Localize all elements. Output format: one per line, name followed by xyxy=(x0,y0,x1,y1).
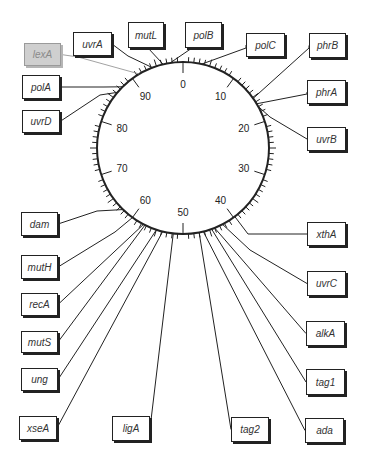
tick-label: 40 xyxy=(215,195,227,206)
tick-label: 50 xyxy=(177,207,189,218)
connector-uvrC xyxy=(223,224,307,283)
minor-tick xyxy=(125,214,128,218)
minor-tick xyxy=(108,199,114,203)
minor-tick xyxy=(268,159,273,160)
connector-tag1 xyxy=(212,229,306,382)
gene-box-recA[interactable]: recA xyxy=(21,293,58,316)
tick-label: 10 xyxy=(215,91,227,102)
minor-tick xyxy=(258,104,262,106)
minor-tick xyxy=(238,214,241,218)
gene-box-phrA[interactable]: phrA xyxy=(307,80,346,104)
connector-lexA xyxy=(61,55,139,74)
gene-label: polA xyxy=(31,82,51,93)
gene-label: tag2 xyxy=(240,424,259,435)
gene-box-mutS[interactable]: mutS xyxy=(21,331,58,353)
minor-tick xyxy=(121,82,124,86)
major-tick xyxy=(227,209,233,218)
minor-tick xyxy=(249,203,253,206)
gene-box-ung[interactable]: ung xyxy=(21,368,58,391)
gene-label: ada xyxy=(316,425,333,436)
gene-box-ada[interactable]: ada xyxy=(305,418,344,443)
gene-box-lexA[interactable]: lexA xyxy=(24,43,61,66)
tick-label: 90 xyxy=(140,91,152,102)
minor-tick xyxy=(229,71,232,75)
minor-tick xyxy=(139,68,141,72)
gene-box-uvrB[interactable]: uvrB xyxy=(307,127,346,151)
minor-tick xyxy=(238,78,241,82)
connector-phrA xyxy=(257,92,307,104)
gene-label: mutH xyxy=(28,262,52,273)
gene-label: polC xyxy=(255,40,276,51)
connector-ada xyxy=(203,232,305,431)
minor-tick xyxy=(125,78,128,82)
minor-tick xyxy=(101,185,106,187)
gene-box-xseA[interactable]: xseA xyxy=(19,416,57,440)
gene-box-uvrD[interactable]: uvrD xyxy=(22,110,60,133)
minor-tick xyxy=(242,211,245,215)
gene-label: uvrC xyxy=(316,278,337,289)
gene-label: mutS xyxy=(28,337,51,348)
minor-tick xyxy=(258,189,262,191)
minor-tick xyxy=(134,221,137,225)
minor-tick xyxy=(113,203,117,206)
gene-box-uvrC[interactable]: uvrC xyxy=(307,271,346,296)
gene-box-tag1[interactable]: tag1 xyxy=(306,369,345,395)
minor-tick xyxy=(210,230,212,237)
tick-label: 30 xyxy=(238,163,250,174)
major-tick xyxy=(101,171,111,174)
gene-label: dam xyxy=(30,219,49,230)
minor-tick xyxy=(253,199,259,203)
connector-ung xyxy=(58,230,156,380)
major-tick xyxy=(254,171,264,174)
gene-box-dam[interactable]: dam xyxy=(21,212,58,236)
minor-tick xyxy=(220,226,222,231)
tick-label: 80 xyxy=(117,123,129,134)
gene-box-phrB[interactable]: phrB xyxy=(309,33,346,58)
gene-box-polC[interactable]: polC xyxy=(246,33,285,57)
gene-box-polB[interactable]: polB xyxy=(185,22,222,48)
minor-tick xyxy=(144,226,146,231)
gene-box-mutH[interactable]: mutH xyxy=(21,255,58,279)
major-tick xyxy=(132,209,138,218)
gene-label: lexA xyxy=(33,49,52,60)
minor-tick xyxy=(256,99,260,102)
minor-tick xyxy=(242,82,245,86)
connector-polB xyxy=(170,48,195,63)
minor-tick xyxy=(256,194,260,197)
minor-tick xyxy=(103,189,107,191)
gene-box-mutL[interactable]: mutL xyxy=(128,22,164,48)
gene-box-alkA[interactable]: alkA xyxy=(306,321,345,346)
major-tick xyxy=(254,121,264,124)
connector-ligA xyxy=(150,233,173,428)
gene-label: ung xyxy=(31,374,48,385)
gene-label: xseA xyxy=(27,423,49,434)
connector-uvrD xyxy=(60,92,117,121)
minor-tick xyxy=(194,58,195,63)
gene-box-ligA[interactable]: ligA xyxy=(112,416,150,441)
gene-label: tag1 xyxy=(316,377,335,388)
gene-box-polA[interactable]: polA xyxy=(22,75,60,99)
gene-box-xthA[interactable]: xthA xyxy=(307,222,346,246)
gene-label: mutL xyxy=(135,30,157,41)
tick-label: 20 xyxy=(238,123,250,134)
connector-xthA xyxy=(235,217,307,234)
gene-label: uvrA xyxy=(82,39,103,50)
minor-tick xyxy=(121,211,124,215)
connector-mutS xyxy=(58,225,145,342)
gene-box-tag2[interactable]: tag2 xyxy=(231,417,269,442)
minor-tick xyxy=(93,137,98,138)
minor-tick xyxy=(106,99,110,102)
gene-label: phrB xyxy=(317,40,338,51)
gene-label: uvrB xyxy=(316,134,337,145)
major-tick xyxy=(101,121,111,124)
gene-box-uvrA[interactable]: uvrA xyxy=(73,32,112,56)
minor-tick xyxy=(144,66,146,71)
minor-tick xyxy=(101,109,106,111)
gene-label: phrA xyxy=(316,87,337,98)
circular-gene-map: 0102030405060708090 lexAuvrAmutLpolBpolC… xyxy=(0,0,365,464)
tick-label: 0 xyxy=(180,79,186,90)
minor-tick xyxy=(229,221,232,225)
minor-tick xyxy=(93,159,98,160)
connector-recA xyxy=(58,224,143,304)
gene-label: ligA xyxy=(123,423,140,434)
